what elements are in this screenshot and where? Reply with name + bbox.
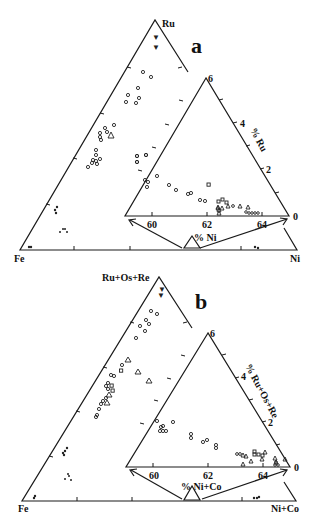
- right-label-a: Ni: [290, 253, 300, 264]
- svg-text:▼: ▼: [152, 43, 160, 52]
- left-label-a: Fe: [14, 253, 25, 264]
- main-points-a: ▼ ▼: [28, 33, 259, 249]
- main-ticks-b: [49, 322, 242, 501]
- svg-text:▼: ▼: [152, 33, 160, 42]
- inset-ylabel-a: % Ru: [248, 126, 270, 154]
- right-label-b: Ni+Co: [271, 503, 299, 514]
- inset-tick-4-b: 4: [241, 371, 246, 382]
- inset-ylabel-b: % Ru+Os+Re: [243, 362, 281, 421]
- apex-label-a: Ru: [162, 18, 175, 29]
- inset-tick-4-a: 4: [240, 118, 245, 129]
- left-label-b: Fe: [18, 503, 29, 514]
- svg-text:▼: ▼: [157, 291, 165, 300]
- panel-letter-b: b: [195, 289, 207, 314]
- inset-tick-2-a: 2: [266, 164, 271, 175]
- ternary-figure: Ru Fe Ni a 6 4 2 0 60 62 64 % Ni % Ru: [0, 0, 322, 521]
- inset-tick-0-a: 0: [293, 211, 298, 222]
- inset-tick-6-a: 6: [208, 73, 213, 84]
- inset-tick-60-a: 60: [147, 219, 157, 230]
- inset-tick-62-a: 62: [202, 219, 212, 230]
- inset-tick-60-b: 60: [149, 470, 159, 481]
- inset-tick-6-b: 6: [210, 328, 215, 339]
- panel-b: Ru+Os+Re Fe Ni+Co b 6 4 2 0 60 62 64 % N…: [18, 272, 299, 514]
- inset-xlabel-a: % Ni: [194, 232, 217, 243]
- inset-tick-62-b: 62: [203, 470, 213, 481]
- panel-a: Ru Fe Ni a 6 4 2 0 60 62 64 % Ni % Ru: [14, 18, 300, 264]
- inset-xlabel-b: % Ni+Co: [181, 481, 221, 492]
- inset-points-a: [135, 153, 259, 215]
- apex-label-b: Ru+Os+Re: [102, 272, 150, 283]
- panel-letter-a: a: [191, 33, 202, 58]
- inset-tick-0-b: 0: [294, 462, 299, 473]
